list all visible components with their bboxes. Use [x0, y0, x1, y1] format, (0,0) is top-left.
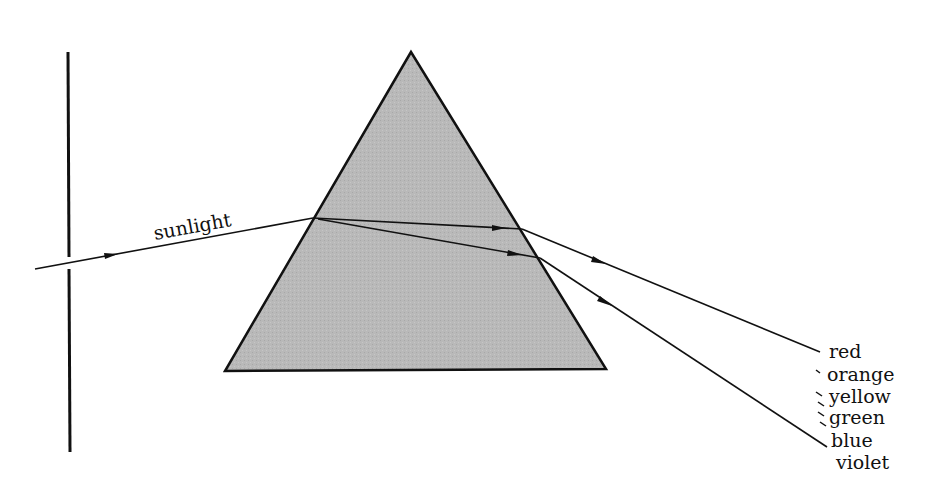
- green-tick: [818, 412, 824, 416]
- spectrum-label-orange: orange: [827, 363, 895, 385]
- spectrum-label-blue: blue: [831, 429, 873, 451]
- spectrum-label-red: red: [829, 340, 862, 362]
- sunlight-label: sunlight: [152, 208, 233, 244]
- prism: [225, 52, 606, 371]
- spectrum-label-violet: violet: [835, 451, 890, 473]
- orange-tick: [816, 370, 820, 373]
- violet-exit-arrowhead: [597, 296, 612, 306]
- slit-wall-lower: [69, 269, 70, 452]
- yellow-tick-2: [818, 402, 824, 406]
- spectrum-label-yellow: yellow: [828, 385, 892, 407]
- red-exit-arrowhead: [591, 256, 606, 264]
- spectrum-label-green: green: [829, 406, 885, 428]
- slit-wall-upper: [68, 52, 69, 257]
- green-tick-2: [820, 422, 826, 426]
- prism-diagram: sunlight red orange yellow green blue vi…: [0, 0, 932, 501]
- sunlight-arrowhead: [104, 253, 118, 259]
- yellow-tick: [816, 392, 822, 396]
